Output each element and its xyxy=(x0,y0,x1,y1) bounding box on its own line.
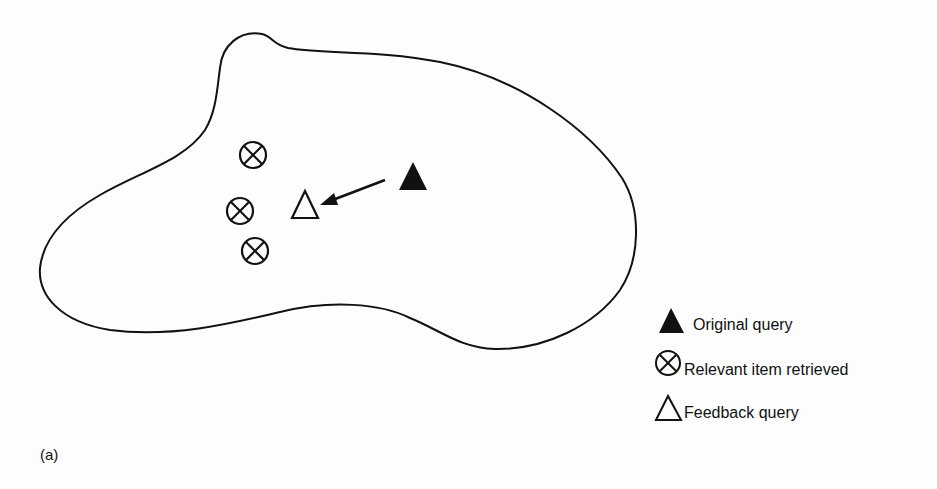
legend-label-feedback-query: Feedback query xyxy=(684,404,799,422)
legend-relevant-item-icon xyxy=(656,351,680,375)
legend-label-original-query: Original query xyxy=(693,316,793,334)
document-space-outline xyxy=(40,33,636,349)
legend-label-relevant-item: Relevant item retrieved xyxy=(684,361,849,379)
relevant-item-icon xyxy=(227,198,253,224)
figure-caption: (a) xyxy=(40,446,58,463)
query-shift-arrow xyxy=(320,180,385,205)
original-query-icon xyxy=(399,162,427,190)
legend-feedback-query-icon xyxy=(656,396,681,420)
relevant-item-icon xyxy=(240,142,266,168)
relevant-item-icon xyxy=(242,238,268,264)
legend-original-query-icon xyxy=(659,308,684,333)
feedback-query-icon xyxy=(292,191,318,218)
